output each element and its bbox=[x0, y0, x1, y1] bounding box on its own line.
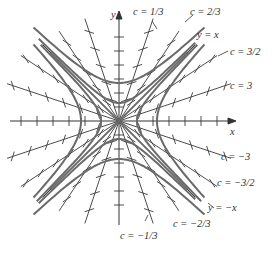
x-axis-label: x bbox=[230, 127, 235, 138]
direction-tick bbox=[179, 159, 185, 167]
isocline-label-y-eq-x: y = x bbox=[197, 30, 219, 41]
direction-tick bbox=[194, 65, 200, 73]
isocline-label-c-3-2: c = 3/2 bbox=[230, 47, 260, 58]
isocline-label-c-neg-2-3: c = −2/3 bbox=[173, 219, 211, 230]
x-axis-arrow-icon bbox=[228, 118, 236, 124]
direction-tick bbox=[179, 75, 185, 83]
direction-tick bbox=[53, 75, 59, 83]
direction-tick bbox=[209, 55, 215, 63]
direction-tick bbox=[157, 55, 165, 61]
direction-tick bbox=[53, 159, 59, 167]
isocline-label-c-neg-3: c = −3 bbox=[221, 152, 250, 163]
isocline-label-y-eq-neg-x: y = −x bbox=[208, 203, 237, 214]
direction-tick bbox=[73, 181, 81, 187]
isocline-label-c-neg-1-3: c = −1/3 bbox=[120, 231, 158, 242]
isocline-label-c-neg-3-2: c = −3/2 bbox=[217, 178, 255, 189]
y-axis-label: y bbox=[111, 10, 116, 21]
direction-tick bbox=[167, 196, 175, 202]
isocline-label-c-1-3: c = 1/3 bbox=[133, 7, 163, 18]
direction-tick bbox=[23, 179, 29, 187]
direction-tick bbox=[209, 179, 215, 187]
y-axis-arrow-icon bbox=[116, 11, 122, 19]
direction-tick bbox=[73, 55, 81, 61]
direction-tick bbox=[167, 40, 175, 46]
direction-tick bbox=[157, 181, 165, 187]
direction-tick bbox=[23, 55, 29, 63]
isocline-label-c-2-3: c = 2/3 bbox=[190, 7, 220, 18]
direction-tick bbox=[194, 169, 200, 177]
direction-tick bbox=[38, 169, 44, 177]
direction-tick bbox=[63, 196, 71, 202]
isocline-label-c-3: c = 3 bbox=[230, 81, 252, 92]
direction-tick bbox=[63, 40, 71, 46]
direction-tick bbox=[38, 65, 44, 73]
